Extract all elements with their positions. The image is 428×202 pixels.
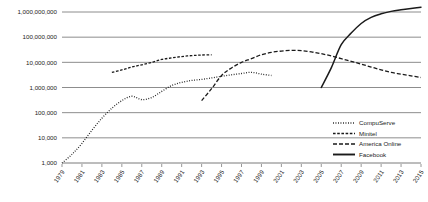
y-axis-tick-label: 10,000,000	[26, 59, 58, 66]
y-axis-tick-label: 1,000	[42, 159, 58, 166]
x-axis-tick-label: 2015	[411, 168, 425, 184]
x-axis-tick-label: 1983	[92, 168, 106, 184]
x-axis-tick-label: 2005	[311, 168, 325, 184]
series-line-minitel	[112, 55, 212, 73]
x-axis-tick-label: 1995	[212, 168, 226, 184]
y-axis-tick-label: 100,000	[35, 109, 58, 116]
series-line-america-online	[202, 50, 421, 100]
y-axis-tick-label: 10,000	[38, 134, 57, 141]
legend-label-america-online: America Online	[359, 140, 402, 147]
legend-label-compuserve: CompuServe	[359, 119, 396, 126]
series-line-compuserve	[62, 72, 271, 163]
x-axis-tick-label: 1999	[252, 168, 266, 184]
x-axis-tick-label: 2013	[391, 168, 405, 184]
legend-label-facebook: Facebook	[359, 151, 387, 158]
x-axis-tick-label: 1993	[192, 168, 206, 184]
x-axis-tick-label: 1991	[172, 168, 186, 184]
x-axis-tick-label: 2001	[272, 168, 286, 184]
y-axis-tick-label: 1,000,000,000	[17, 8, 57, 15]
x-axis-tick-label: 2003	[292, 168, 306, 184]
x-axis-tick-label: 1985	[112, 168, 126, 184]
x-axis-tick-label: 1981	[72, 168, 86, 184]
line-chart: 1,000,000,000100,000,00010,000,0001,000,…	[0, 0, 428, 202]
x-axis-tick-label: 2009	[351, 168, 365, 184]
x-axis-tick-label: 1997	[232, 168, 246, 184]
x-axis-tick-label: 1989	[152, 168, 166, 184]
x-axis-tick-label: 2007	[331, 168, 345, 184]
x-axis-tick-label: 1979	[52, 168, 66, 184]
legend-label-minitel: Minitel	[359, 130, 377, 137]
y-axis-tick-label: 100,000,000	[23, 33, 58, 40]
x-axis-tick-label: 2011	[372, 168, 386, 183]
y-axis-tick-label: 1,000,000	[29, 84, 57, 91]
chart-container: 1,000,000,000100,000,00010,000,0001,000,…	[0, 0, 428, 202]
x-axis-tick-label: 1987	[132, 168, 146, 184]
